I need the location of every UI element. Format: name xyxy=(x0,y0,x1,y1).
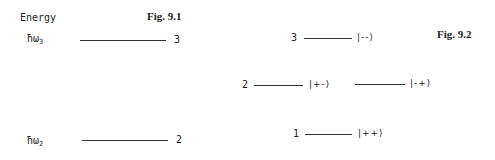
level-number-2: 2 xyxy=(176,135,182,145)
state-ket-minus-minus: |--⟩ xyxy=(357,33,374,42)
energy-level-line-3 xyxy=(304,38,352,39)
hbar-omega-symbol: ħω xyxy=(27,135,39,146)
energy-level-line-3 xyxy=(80,40,166,41)
state-ket-plus-minus: |+-⟩ xyxy=(309,80,330,89)
level-number-1: 1 xyxy=(293,129,299,139)
energy-level-line-2 xyxy=(82,140,168,141)
energy-level-line-2a xyxy=(254,85,303,86)
energy-label-hw3: ħω3 xyxy=(27,34,43,46)
level-number-2: 2 xyxy=(242,80,248,90)
energy-label-hw2: ħω2 xyxy=(27,136,43,148)
state-ket-minus-plus: |-+⟩ xyxy=(410,79,431,88)
subscript: 3 xyxy=(39,38,43,46)
hbar-omega-symbol: ħω xyxy=(27,33,39,44)
fig-9-1-title: Fig. 9.1 xyxy=(147,11,182,22)
level-number-3: 3 xyxy=(174,35,180,45)
state-ket-plus-plus: |++⟩ xyxy=(358,129,384,138)
level-number-3: 3 xyxy=(291,33,297,43)
energy-axis-label: Energy xyxy=(20,13,56,23)
fig-9-2-title: Fig. 9.2 xyxy=(437,29,472,40)
energy-level-line-1 xyxy=(305,134,352,135)
subscript: 2 xyxy=(39,140,43,148)
energy-level-line-2b xyxy=(355,84,405,85)
